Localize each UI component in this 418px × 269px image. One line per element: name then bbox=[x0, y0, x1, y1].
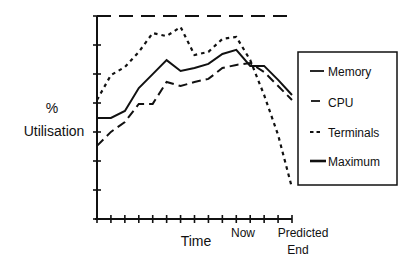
legend-label-cpu: CPU bbox=[328, 96, 353, 110]
chart-canvas: % Utilisation Time Now Predicted End Mem… bbox=[0, 0, 418, 269]
x-tick-label-end: End bbox=[287, 243, 308, 257]
legend-label-maximum: Maximum bbox=[328, 155, 380, 169]
x-tick-label-now: Now bbox=[231, 226, 255, 240]
x-tick-label-predicted: Predicted bbox=[278, 226, 329, 240]
legend: Memory CPU Terminals Maximum bbox=[298, 52, 397, 185]
x-axis-label-time: Time bbox=[181, 233, 212, 249]
series-memory-line bbox=[97, 50, 292, 118]
line-chart: % Utilisation Time Now Predicted End Mem… bbox=[0, 0, 418, 269]
legend-label-memory: Memory bbox=[328, 65, 371, 79]
legend-label-terminals: Terminals bbox=[328, 126, 379, 140]
series-layer bbox=[97, 16, 292, 188]
axes bbox=[93, 16, 292, 223]
y-axis-label-utilisation: Utilisation bbox=[24, 123, 85, 139]
y-axis-label-percent: % bbox=[46, 100, 58, 116]
series-cpu-line bbox=[97, 63, 292, 146]
